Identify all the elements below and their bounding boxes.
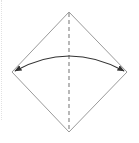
origami-diagram <box>0 0 139 143</box>
